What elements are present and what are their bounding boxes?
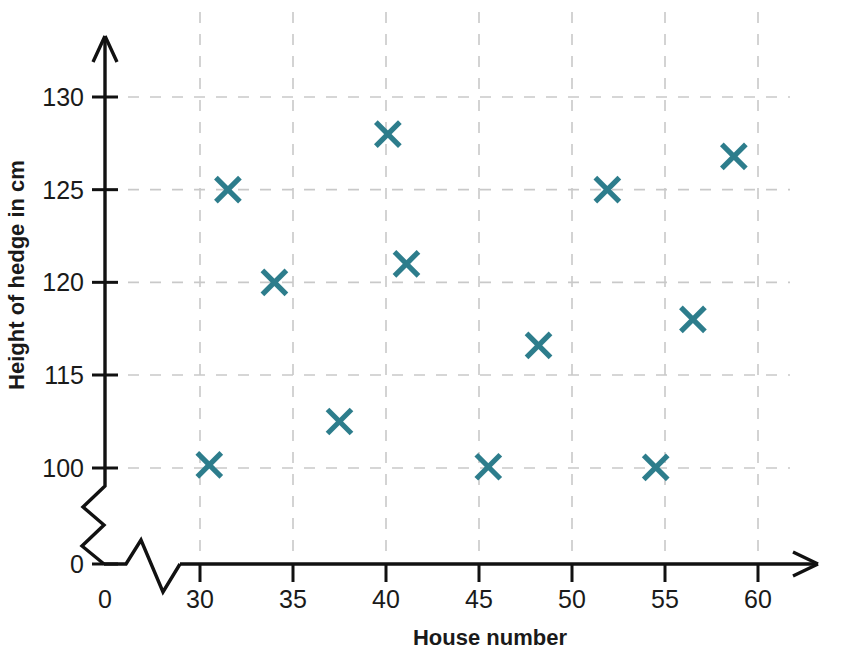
- data-point-marker: [328, 410, 352, 434]
- data-point-marker: [722, 144, 746, 168]
- x-tick-label: 45: [465, 585, 493, 613]
- y-tick-label: 100: [42, 454, 84, 482]
- x-axis-tick-labels: 030354045505560: [98, 585, 772, 613]
- data-point-marker: [376, 122, 400, 146]
- y-tick-label: 120: [42, 268, 84, 296]
- data-point-marker: [197, 453, 221, 477]
- horizontal-gridlines: [106, 97, 790, 468]
- x-tick-label: 30: [186, 585, 214, 613]
- x-tick-label: 55: [651, 585, 679, 613]
- y-tick-label: 0: [70, 550, 84, 578]
- x-tick-label: 60: [744, 585, 772, 613]
- data-markers: [197, 122, 746, 479]
- x-tick-label: 50: [558, 585, 586, 613]
- y-axis-title: Height of hedge in cm: [4, 160, 29, 390]
- y-axis-tick-labels: 0100115120125130: [42, 83, 84, 578]
- x-tick-label: 35: [279, 585, 307, 613]
- x-tick-label: 0: [98, 585, 112, 613]
- y-tick-label: 130: [42, 83, 84, 111]
- scatter-plot: 030354045505560 0100115120125130 House n…: [0, 0, 850, 653]
- axes: [82, 36, 818, 592]
- x-axis-ticks: [200, 564, 758, 582]
- data-point-marker: [394, 252, 418, 276]
- chart-canvas: 030354045505560 0100115120125130 House n…: [0, 0, 850, 653]
- data-point-marker: [527, 333, 551, 357]
- y-tick-label: 115: [44, 361, 84, 389]
- data-point-marker: [476, 455, 500, 479]
- data-point-marker: [681, 307, 705, 331]
- x-axis-title: House number: [413, 625, 567, 650]
- x-tick-label: 40: [372, 585, 400, 613]
- y-tick-label: 125: [42, 176, 84, 204]
- y-axis-break-zigzag: [82, 468, 105, 564]
- x-axis-break-zigzag: [104, 540, 180, 592]
